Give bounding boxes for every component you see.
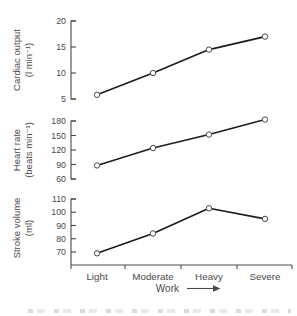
x-axis-category-label: Heavy (195, 271, 223, 282)
heart-rate-chart: Heart rate (beats min⁻¹) 6090120150180 (11, 116, 268, 184)
cropped-caption-remnant (28, 309, 291, 313)
data-line (97, 37, 265, 95)
cardiac-output-plot-area: 5101520 (56, 16, 267, 104)
y-axis-units-stroke-volume: (ml) (23, 220, 34, 236)
y-axis-tick-label: 5 (61, 94, 66, 104)
right-arrow-icon (187, 285, 221, 291)
y-axis-tick-label: 120 (51, 145, 66, 155)
y-axis-tick-label: 60 (56, 174, 66, 184)
x-axis-category-label: Light (86, 271, 108, 282)
y-axis-title-cardiac-output: Cardiac output (11, 29, 22, 91)
x-axis-category-label: Severe (249, 271, 281, 282)
data-point-marker (262, 216, 267, 221)
stroke-volume-chart: Stroke volume (ml) 708090100110 (11, 194, 268, 265)
y-axis-spine (71, 21, 76, 99)
data-point-marker (150, 70, 155, 75)
shared-x-axis: LightModerateHeavySevere Work (71, 265, 292, 294)
data-line (97, 120, 265, 166)
y-axis-spine (71, 199, 76, 265)
y-axis-tick-label: 110 (52, 194, 66, 204)
cardiac-output-chart: Cardiac output (l min⁻¹) 5101520 (11, 16, 268, 104)
data-point-marker (262, 34, 267, 39)
y-axis-tick-label: 100 (51, 207, 66, 217)
y-axis-tick-label: 10 (56, 68, 66, 78)
y-axis-title-stroke-volume: Stroke volume (11, 198, 22, 259)
x-axis-title: Work (156, 283, 180, 294)
y-axis-tick-label: 15 (56, 42, 66, 52)
y-axis-tick-label: 90 (56, 160, 66, 170)
y-axis-tick-label: 90 (56, 221, 66, 231)
data-line (97, 208, 265, 253)
y-axis-tick-label: 80 (56, 234, 66, 244)
data-point-marker (94, 92, 99, 97)
x-axis-category-label: Moderate (132, 271, 174, 282)
physiology-work-response-charts: Cardiac output (l min⁻¹) 5101520 Heart r… (0, 0, 297, 316)
y-axis-tick-label: 180 (51, 116, 66, 126)
heart-rate-plot-area: 6090120150180 (51, 116, 267, 184)
y-axis-units-cardiac-output: (l min⁻¹) (23, 43, 34, 78)
y-axis-units-heart-rate: (beats min⁻¹) (23, 122, 34, 178)
data-point-marker (94, 251, 99, 256)
data-point-marker (206, 47, 211, 52)
figure: Cardiac output (l min⁻¹) 5101520 Heart r… (0, 0, 297, 316)
y-axis-tick-label: 70 (56, 247, 66, 257)
stroke-volume-plot-area: 708090100110 (51, 194, 267, 265)
data-point-marker (150, 145, 155, 150)
y-axis-title-heart-rate: Heart rate (11, 129, 22, 171)
data-point-marker (206, 206, 211, 211)
data-point-marker (262, 117, 267, 122)
data-point-marker (150, 231, 155, 236)
data-point-marker (206, 132, 211, 137)
y-axis-tick-label: 20 (56, 16, 66, 26)
y-axis-tick-label: 150 (51, 131, 66, 141)
x-axis-line-and-ticks: LightModerateHeavySevere (71, 265, 292, 282)
data-point-marker (94, 163, 99, 168)
